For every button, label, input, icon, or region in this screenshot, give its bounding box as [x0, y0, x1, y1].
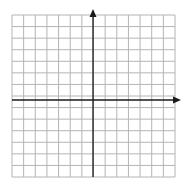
- coordinate-plane: [0, 0, 183, 186]
- y-axis-arrow-icon: [90, 9, 97, 17]
- x-axis-arrow-icon: [173, 97, 181, 104]
